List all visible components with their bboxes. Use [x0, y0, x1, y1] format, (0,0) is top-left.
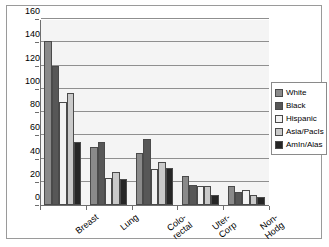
- legend-label: Black: [286, 101, 306, 110]
- bar: [242, 190, 249, 205]
- chart-legend: WhiteBlackHispanicAsia/PacIsAmIn/Alas: [271, 82, 327, 155]
- bar: [228, 186, 235, 205]
- y-tick-label: 100: [14, 76, 40, 85]
- chart-frame: 020406080100120140160 BreastLungColo-rec…: [6, 5, 322, 239]
- legend-item-white[interactable]: White: [275, 86, 324, 99]
- bar: [211, 195, 218, 205]
- y-tick-label: 120: [14, 53, 40, 62]
- y-tick-mark: [35, 112, 39, 113]
- bar: [250, 195, 257, 205]
- x-tick-mark: [223, 206, 224, 210]
- bar: [67, 93, 74, 205]
- bar: [59, 102, 66, 205]
- y-tick-mark: [35, 159, 39, 160]
- x-tick-mark: [269, 206, 270, 210]
- legend-item-hispanic[interactable]: Hispanic: [275, 112, 324, 125]
- bar: [105, 178, 112, 205]
- bar-group: [133, 20, 179, 205]
- bar: [136, 153, 143, 205]
- y-tick-mark: [35, 205, 39, 206]
- y-tick-label: 0: [14, 193, 40, 202]
- bar: [204, 186, 211, 205]
- bar-group: [224, 20, 270, 205]
- bar: [52, 66, 59, 206]
- x-tick-label: Non-Hodg: [256, 212, 285, 241]
- bar: [90, 147, 97, 205]
- bar: [98, 142, 105, 205]
- bar-group: [41, 20, 87, 205]
- bar: [189, 185, 196, 205]
- y-tick-mark: [35, 182, 39, 183]
- legend-swatch-icon: [275, 141, 283, 149]
- bar: [143, 139, 150, 205]
- legend-swatch-icon: [275, 89, 283, 97]
- plot-area: [40, 20, 269, 206]
- y-tick-mark: [35, 42, 39, 43]
- legend-item-black[interactable]: Black: [275, 99, 324, 112]
- bar: [74, 142, 81, 205]
- legend-label: AmIn/Alas: [286, 140, 322, 149]
- y-tick-label: 160: [14, 7, 40, 16]
- x-tick-mark: [40, 206, 41, 210]
- x-tick-label: Lung: [118, 212, 140, 232]
- y-tick-label: 80: [14, 100, 40, 109]
- bar: [151, 169, 158, 205]
- legend-swatch-icon: [275, 102, 283, 110]
- bar: [257, 197, 264, 205]
- y-tick-label: 20: [14, 169, 40, 178]
- x-tick-label: Uter-Corp: [210, 212, 238, 240]
- bar: [44, 41, 51, 205]
- bar: [182, 176, 189, 205]
- x-tick-label: Breast: [74, 212, 101, 236]
- legend-label: White: [286, 88, 306, 97]
- legend-label: Asia/PacIs: [286, 127, 324, 136]
- x-tick-label-line: Lung: [118, 212, 140, 232]
- y-tick-label: 60: [14, 123, 40, 132]
- x-tick-mark: [132, 206, 133, 210]
- y-axis: 020406080100120140160: [7, 20, 40, 206]
- legend-swatch-icon: [275, 115, 283, 123]
- y-tick-label: 40: [14, 146, 40, 155]
- y-tick-label: 140: [14, 30, 40, 39]
- bar: [158, 162, 165, 205]
- bar: [197, 186, 204, 205]
- x-tick-mark: [86, 206, 87, 210]
- x-tick-label-line: Breast: [74, 212, 101, 236]
- y-tick-mark: [35, 135, 39, 136]
- bar-group: [87, 20, 133, 205]
- legend-label: Hispanic: [286, 114, 317, 123]
- legend-item-amin-alas[interactable]: AmIn/Alas: [275, 138, 324, 151]
- bar-group: [178, 20, 224, 205]
- y-tick-mark: [35, 89, 39, 90]
- y-tick-mark: [35, 66, 39, 67]
- legend-swatch-icon: [275, 128, 283, 136]
- x-tick-mark: [177, 206, 178, 210]
- x-tick-label: Colo-rectal: [165, 212, 195, 241]
- x-axis: BreastLungColo-rectalUter-CorpNon-Hodg: [40, 206, 269, 247]
- legend-item-asia-pacis[interactable]: Asia/PacIs: [275, 125, 324, 138]
- gridline: [41, 18, 269, 19]
- bar: [166, 168, 173, 205]
- y-tick-mark: [35, 19, 39, 20]
- bar: [112, 172, 119, 205]
- bar: [120, 179, 127, 205]
- bar: [235, 192, 242, 205]
